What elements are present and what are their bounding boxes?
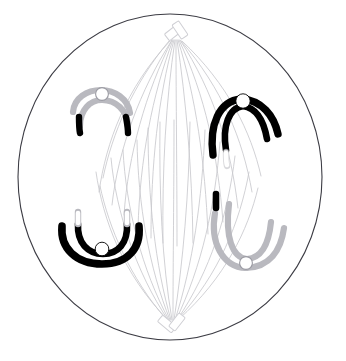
centromere: [96, 88, 109, 101]
centromere: [240, 257, 253, 270]
centromere: [236, 94, 250, 108]
centromere: [95, 242, 109, 256]
cell-division-diagram: [0, 0, 346, 361]
chromatid-tip-fill: [226, 153, 227, 165]
chromatid-tip: [79, 117, 80, 133]
cell-membrane: [18, 14, 322, 340]
figure-root: [0, 0, 346, 361]
chromatid-tip: [126, 117, 128, 133]
